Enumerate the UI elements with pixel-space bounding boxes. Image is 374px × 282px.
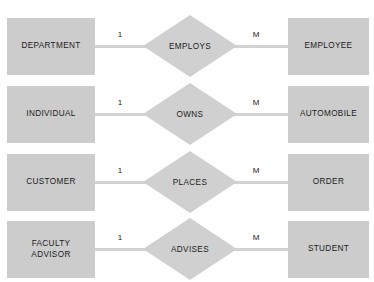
entity-label-right: ORDER [313, 177, 344, 188]
er-relationship-row: INDIVIDUAL 1 OWNS M AUTOMOBILE [0, 84, 374, 146]
relationship-label: OWNS [143, 83, 237, 145]
connector-line-left [95, 248, 148, 251]
entity-box-right[interactable]: STUDENT [288, 221, 369, 278]
connector-line-left [95, 181, 148, 184]
cardinality-left: 1 [113, 166, 127, 175]
relationship-label: PLACES [143, 151, 237, 213]
relationship-diamond[interactable]: EMPLOYS [143, 15, 237, 77]
entity-label-right: STUDENT [308, 244, 349, 255]
connector-line-right [232, 181, 290, 184]
entity-box-left[interactable]: DEPARTMENT [7, 18, 95, 75]
cardinality-right: M [249, 166, 263, 175]
cardinality-left: 1 [113, 30, 127, 39]
connector-line-right [232, 113, 290, 116]
entity-label-left: CUSTOMER [26, 177, 76, 188]
entity-box-right[interactable]: ORDER [288, 154, 369, 211]
cardinality-right: M [249, 30, 263, 39]
connector-line-right [232, 248, 290, 251]
relationship-diamond[interactable]: PLACES [143, 151, 237, 213]
entity-box-left[interactable]: INDIVIDUAL [7, 86, 95, 143]
cardinality-left: 1 [113, 233, 127, 242]
relationship-label: EMPLOYS [143, 15, 237, 77]
connector-line-left [95, 113, 148, 116]
entity-box-right[interactable]: AUTOMOBILE [288, 86, 369, 143]
entity-label-left: INDIVIDUAL [26, 109, 75, 120]
er-diagram-canvas: DEPARTMENT 1 EMPLOYS M EMPLOYEE INDIVIDU… [0, 0, 374, 282]
er-relationship-row: CUSTOMER 1 PLACES M ORDER [0, 152, 374, 214]
cardinality-right: M [249, 233, 263, 242]
entity-box-left[interactable]: CUSTOMER [7, 154, 95, 211]
connector-line-right [232, 45, 290, 48]
connector-line-left [95, 45, 148, 48]
entity-label-right: AUTOMOBILE [300, 109, 357, 120]
er-relationship-row: DEPARTMENT 1 EMPLOYS M EMPLOYEE [0, 16, 374, 78]
entity-label-right: EMPLOYEE [305, 41, 353, 52]
relationship-label: ADVISES [143, 218, 237, 280]
cardinality-left: 1 [113, 98, 127, 107]
entity-label-left: DEPARTMENT [21, 41, 80, 52]
entity-label-left: FACULTY ADVISOR [31, 239, 70, 260]
relationship-diamond[interactable]: ADVISES [143, 218, 237, 280]
relationship-diamond[interactable]: OWNS [143, 83, 237, 145]
entity-box-left[interactable]: FACULTY ADVISOR [7, 221, 95, 278]
entity-box-right[interactable]: EMPLOYEE [288, 18, 369, 75]
cardinality-right: M [249, 98, 263, 107]
er-relationship-row: FACULTY ADVISOR 1 ADVISES M STUDENT [0, 219, 374, 281]
